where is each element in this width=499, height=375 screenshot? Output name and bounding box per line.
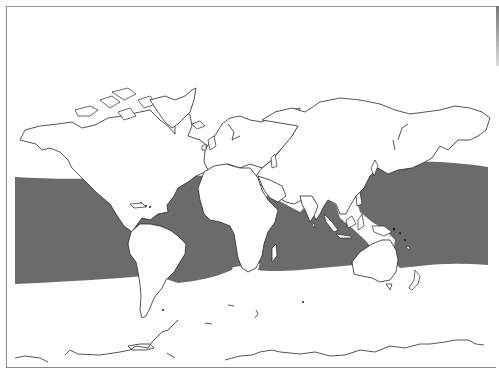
world-map	[0, 0, 499, 375]
new-zealand	[409, 270, 420, 290]
antarctica-coast	[15, 356, 48, 362]
